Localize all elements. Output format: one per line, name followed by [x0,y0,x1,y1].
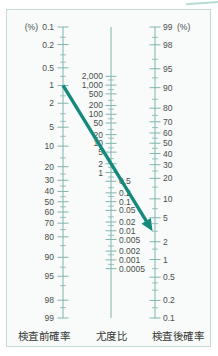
tick-label: 0.1 [42,22,54,32]
tick-label: 98 [163,40,173,50]
tick-label: 80 [45,232,55,242]
posttest-probability-axis: 99(%)98959080706050403020105210.50.20.1 [150,22,191,323]
tick-label: 99 [163,22,173,32]
tick-label: 70 [163,117,173,127]
tick-label: 0.0005 [119,264,145,274]
tick-label: 5 [163,213,168,223]
tick-label: 500 [89,89,103,99]
tick-label: 0.1 [163,313,175,323]
tick-label: 0.2 [163,295,175,305]
tick-label: (%) [25,22,38,32]
likelihood-ratio-axis: 2,0001,0005002001005020105210.50.20.10.0… [82,27,146,318]
tick-label: 99 [45,313,55,323]
tick-label: 30 [45,175,55,185]
tick-label: 0.2 [42,40,54,50]
tick-label: 90 [45,252,55,262]
likelihood-ratio-axis-title: 尤度比 [91,329,132,343]
fagan-nomogram-chart: 0.1(%)0.20.51251020304050607080909598992… [0,0,218,356]
tick-label: 50 [163,138,173,148]
tick-label: 95 [163,64,173,74]
tick-label: 30 [163,160,173,170]
pretest-probability-axis: 0.1(%)0.20.5125102030405060708090959899 [25,22,69,323]
tick-label: 50 [45,197,55,207]
tick-label: 98 [45,295,55,305]
tick-label: 40 [45,186,55,196]
tick-label: (%) [177,22,190,32]
tick-label: 1 [49,80,54,90]
tick-label: 5 [49,122,54,132]
tick-label: 0.5 [42,63,54,73]
pretest-probability-axis-title: 検査前確率 [13,329,75,343]
tick-label: 60 [45,207,55,217]
tick-label: 0.05 [119,205,136,215]
tick-label: 2 [163,237,168,247]
tick-label: 90 [163,83,173,93]
tick-label: 20 [45,162,55,172]
arrow-shaft [63,85,147,222]
tick-label: 80 [163,103,173,113]
example-arrow [63,85,153,231]
tick-label: 50 [94,118,104,128]
tick-label: 2 [49,98,54,108]
page: 0.1(%)0.20.51251020304050607080909598992… [0,0,218,356]
tick-label: 0.5 [163,272,175,282]
posttest-probability-axis-title: 検査後確率 [147,329,209,343]
tick-label: 60 [163,128,173,138]
tick-label: 1 [98,168,103,178]
tick-label: 95 [45,271,55,281]
tick-label: 40 [163,149,173,159]
tick-label: 0.005 [119,235,141,245]
tick-label: 1 [163,255,168,265]
tick-label: 10 [45,141,55,151]
tick-label: 20 [163,173,173,183]
tick-label: 70 [45,218,55,228]
tick-label: 10 [163,194,173,204]
